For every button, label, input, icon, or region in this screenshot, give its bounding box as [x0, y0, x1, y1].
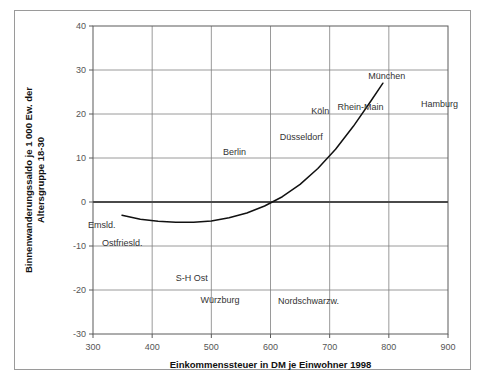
x-tick-label: 800	[381, 342, 396, 352]
data-point-label: Rhein-Main	[338, 102, 384, 112]
x-axis-title: Einkommenssteuer in DM je Einwohner 1998	[170, 359, 372, 370]
data-point-label: München	[368, 71, 405, 81]
y-tick-label: 40	[76, 21, 86, 31]
scatter-plot: Emsld.Ostfriesld.BerlinS-H OstWürzburgNo…	[0, 0, 485, 388]
data-point-label: Emsld.	[88, 220, 116, 230]
data-points-highlighted	[122, 0, 413, 283]
x-axis-tick-labels: 300400500600700800900	[85, 342, 455, 352]
y-axis-tick-labels: 403020100-10-20-30	[73, 21, 86, 339]
data-point-label: Ostfriesld.	[102, 238, 143, 248]
y-tick-label: -20	[73, 285, 86, 295]
y-tick-label: 0	[81, 197, 86, 207]
x-tick-label: 900	[440, 342, 455, 352]
data-point-labels: Emsld.Ostfriesld.BerlinS-H OstWürzburgNo…	[88, 71, 458, 306]
y-axis-title-line1: Binnenwanderungssaldo je 1 000 Ew. der	[23, 87, 34, 273]
x-tick-label: 700	[322, 342, 337, 352]
y-axis-title-line2: Altersgruppe 18-30	[35, 137, 46, 223]
x-tick-label: 400	[145, 342, 160, 352]
data-point-label: Berlin	[223, 147, 246, 157]
y-tick-label: 20	[76, 109, 86, 119]
data-point-label: Köln	[311, 106, 329, 116]
data-point-label: Hamburg	[421, 99, 458, 109]
plot-svg: Emsld.Ostfriesld.BerlinS-H OstWürzburgNo…	[0, 0, 485, 388]
y-tick-label: -10	[73, 241, 86, 251]
x-tick-label: 500	[204, 342, 219, 352]
y-tick-label: -30	[73, 329, 86, 339]
chart-page: Emsld.Ostfriesld.BerlinS-H OstWürzburgNo…	[0, 0, 485, 388]
data-point-label: Düsseldorf	[280, 132, 324, 142]
x-tick-label: 300	[85, 342, 100, 352]
data-point-label: S-H Ost	[176, 273, 209, 283]
data-point-label: Würzburg	[201, 295, 240, 305]
x-tick-label: 600	[263, 342, 278, 352]
y-tick-label: 30	[76, 65, 86, 75]
data-point-label: Nordschwarzw.	[278, 296, 339, 306]
y-tick-label: 10	[76, 153, 86, 163]
